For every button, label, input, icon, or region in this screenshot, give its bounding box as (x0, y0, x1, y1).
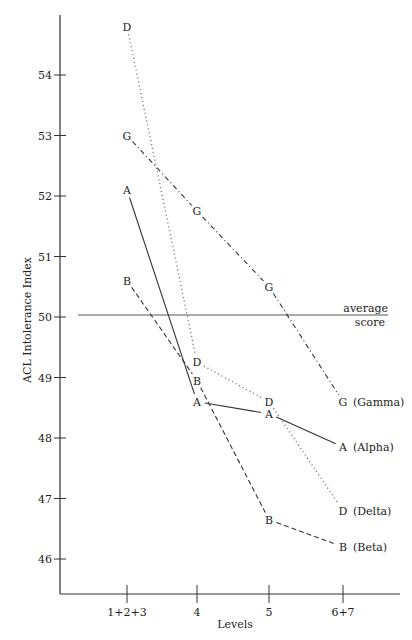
series-legend-label: (Gamma) (353, 396, 404, 409)
series-line-segment (273, 293, 338, 394)
y-ticks: 464748495051525354 (38, 69, 66, 566)
line-chart: 464748495051525354 1+2+3456+7 average sc… (0, 0, 412, 640)
data-point-marker: G (339, 396, 348, 409)
data-point-marker: B (339, 541, 347, 554)
data-point-marker: B (265, 514, 273, 527)
y-tick-label: 51 (38, 251, 52, 264)
data-point-marker: B (123, 275, 131, 288)
series-gamma: GGGG(Gamma) (123, 130, 405, 409)
series-line-segment (204, 366, 262, 398)
data-point-marker: B (193, 375, 201, 388)
series-alpha: AAAA(Alpha) (122, 184, 394, 454)
series-legend-label: (Delta) (353, 505, 391, 518)
x-tick-label: 1+2+3 (107, 606, 146, 619)
chart-canvas: 464748495051525354 1+2+3456+7 average sc… (0, 0, 412, 640)
data-point-marker: D (123, 21, 132, 34)
series-group: GGGG(Gamma)AAAA(Alpha)DDDD(Delta)BBBB(Be… (122, 21, 404, 554)
x-tick-label: 6+7 (331, 606, 354, 619)
data-point-marker: D (193, 356, 202, 369)
series-line-segment (201, 388, 266, 513)
data-point-marker: D (265, 396, 274, 409)
series-line-segment (276, 417, 335, 444)
series-line-segment (129, 34, 196, 354)
average-score-line: average score (78, 302, 388, 329)
data-point-marker: A (122, 184, 132, 197)
series-line-segment (132, 287, 193, 374)
y-tick-label: 50 (38, 311, 52, 324)
y-tick-label: 46 (38, 553, 52, 566)
series-line-segment (273, 408, 338, 504)
y-tick-label: 49 (38, 372, 52, 385)
series-line-segment (203, 217, 264, 281)
series-line-segment (277, 522, 336, 544)
series-legend-label: (Alpha) (353, 441, 394, 454)
data-point-marker: A (264, 408, 274, 421)
data-point-marker: D (339, 505, 348, 518)
reference-label-line2: score (355, 316, 385, 329)
x-tick-label: 5 (266, 606, 273, 619)
data-point-marker: G (123, 130, 132, 143)
y-tick-label: 54 (38, 69, 52, 82)
y-tick-label: 52 (38, 190, 52, 203)
y-tick-label: 53 (38, 130, 52, 143)
x-axis-title: Levels (217, 618, 253, 631)
data-point-marker: G (265, 281, 274, 294)
x-tick-label: 4 (194, 606, 201, 619)
y-tick-label: 48 (38, 432, 52, 445)
y-tick-label: 47 (38, 493, 52, 506)
series-legend-label: (Beta) (353, 541, 387, 554)
reference-label-line1: average (343, 302, 388, 315)
series-delta: DDDD(Delta) (123, 21, 392, 518)
data-point-marker: G (193, 205, 202, 218)
series-beta: BBBB(Beta) (123, 275, 387, 554)
data-point-marker: A (192, 396, 202, 409)
data-point-marker: A (338, 441, 348, 454)
y-axis-title: ACL Intolerance Index (21, 256, 34, 384)
x-ticks: 1+2+3456+7 (107, 585, 354, 619)
series-line-segment (130, 198, 195, 395)
